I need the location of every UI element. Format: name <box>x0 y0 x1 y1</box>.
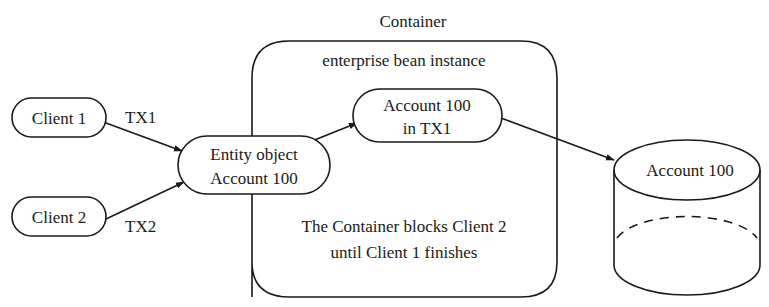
container-subtitle: enterprise bean instance <box>322 51 485 70</box>
tx1-label: TX1 <box>125 108 156 127</box>
arrow-entity-to-bean <box>312 123 357 141</box>
bean-instance-line2: in TX1 <box>403 119 451 138</box>
bean-instance-line1: Account 100 <box>383 96 470 115</box>
client-1-node: Client 1 TX1 <box>12 98 156 137</box>
arrow-client1-to-entity <box>106 123 182 151</box>
client-2-label: Client 2 <box>32 208 86 227</box>
entity-object-line2: Account 100 <box>210 169 297 188</box>
arrow-client2-to-entity <box>106 182 184 219</box>
client-1-label: Client 1 <box>32 109 86 128</box>
container-note-line2: until Client 1 finishes <box>331 243 478 262</box>
bean-instance-node: Account 100 in TX1 <box>353 89 502 142</box>
client-2-node: Client 2 TX2 <box>12 197 156 236</box>
database-label: Account 100 <box>646 161 733 180</box>
diagram-canvas: Container enterprise bean instance The C… <box>0 0 769 307</box>
container-note-line1: The Container blocks Client 2 <box>302 217 507 236</box>
entity-object-node: Entity object Account 100 <box>178 136 330 194</box>
entity-object-line1: Entity object <box>210 145 298 164</box>
database-cylinder: Account 100 <box>614 140 760 295</box>
tx2-label: TX2 <box>125 217 156 236</box>
container-title: Container <box>379 12 446 31</box>
